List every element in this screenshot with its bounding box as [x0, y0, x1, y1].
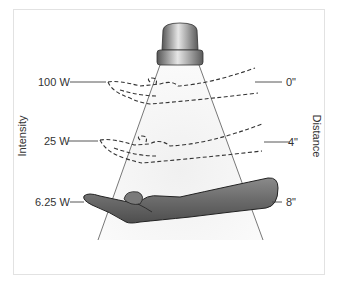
intensity-label-100w: 100 W — [38, 76, 70, 88]
lamp-icon — [157, 23, 203, 65]
axis-label-intensity: Intensity — [16, 116, 28, 157]
distance-label-4: 4" — [288, 136, 298, 148]
distance-label-8: 8" — [286, 196, 296, 208]
axis-label-distance: Distance — [311, 115, 323, 158]
intensity-label-25w: 25 W — [44, 135, 70, 147]
distance-label-0: 0" — [286, 76, 296, 88]
intensity-label-625w: 6.25 W — [35, 196, 70, 208]
